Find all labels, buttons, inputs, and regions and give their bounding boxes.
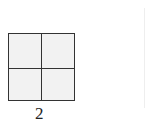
figure-label: 2: [35, 105, 44, 122]
adjacent-figure-edge: [144, 8, 145, 108]
grid-vertical-divider: [41, 34, 42, 100]
grid-horizontal-divider: [9, 68, 74, 69]
square-grid-2x2: [8, 33, 75, 101]
